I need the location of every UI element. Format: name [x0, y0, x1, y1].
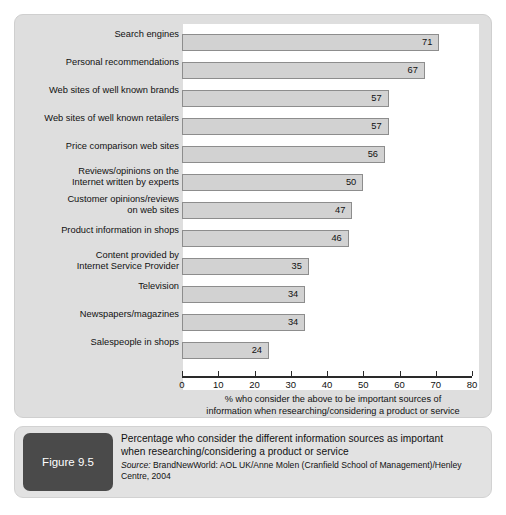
bar-row: Television34: [15, 281, 493, 309]
bar: 34: [182, 314, 305, 331]
bar-row: Newspapers/magazines34: [15, 309, 493, 337]
bar-value-label: 71: [422, 37, 432, 47]
x-axis-tick: [472, 371, 473, 376]
bar-category-label: Search engines: [19, 29, 179, 40]
bar-value-label: 34: [288, 289, 298, 299]
bar-value-label: 46: [331, 233, 341, 243]
x-axis-title-line-1: % who consider the above to be important…: [183, 393, 483, 405]
bar-track: 35: [182, 258, 478, 276]
chart-panel: Search engines71Personal recommendations…: [14, 14, 492, 418]
x-axis-tick: [400, 371, 401, 376]
bar: 71: [182, 34, 439, 51]
x-axis-tick-label: 10: [213, 379, 224, 390]
bar-row: Personal recommendations67: [15, 57, 493, 85]
bar-category-label: Customer opinions/reviews on web sites: [19, 194, 179, 215]
x-axis-tick-label: 50: [358, 379, 369, 390]
bar: 24: [182, 342, 269, 359]
bar-track: 56: [182, 146, 478, 164]
x-axis-tick-label: 80: [467, 379, 478, 390]
bar-track: 34: [182, 314, 478, 332]
bar-track: 24: [182, 342, 478, 360]
caption-title: Percentage who consider the different in…: [121, 433, 485, 458]
bar: 35: [182, 258, 309, 275]
bar-category-label: Television: [19, 281, 179, 292]
x-axis-tick: [255, 371, 256, 376]
bar-value-label: 47: [335, 205, 345, 215]
bar-category-label: Web sites of well known brands: [19, 85, 179, 96]
bar-track: 57: [182, 90, 478, 108]
bar: 56: [182, 146, 385, 163]
bar-row: Search engines71: [15, 29, 493, 57]
bar-value-label: 56: [368, 149, 378, 159]
bar-row: Customer opinions/reviews on web sites47: [15, 197, 493, 225]
bar-row: Reviews/opinions on the Internet written…: [15, 169, 493, 197]
x-axis-tick-labels: 01020304050607080: [15, 379, 493, 393]
bar: 47: [182, 202, 352, 219]
caption-text-block: Percentage who consider the different in…: [121, 433, 485, 482]
x-axis-tick: [182, 371, 183, 376]
bar-track: 67: [182, 62, 478, 80]
bar: 57: [182, 90, 389, 107]
figure-number-badge: Figure 9.5: [23, 433, 113, 491]
x-axis-tick: [436, 371, 437, 376]
x-axis-tick-label: 0: [179, 379, 184, 390]
bar-category-label: Web sites of well known retailers: [19, 113, 179, 124]
bar-value-label: 24: [252, 345, 262, 355]
bar-track: 57: [182, 118, 478, 136]
bar: 57: [182, 118, 389, 135]
bar-row: Content provided by Internet Service Pro…: [15, 253, 493, 281]
bar-category-label: Newspapers/magazines: [19, 309, 179, 320]
bar-value-label: 34: [288, 317, 298, 327]
caption-panel: Figure 9.5 Percentage who consider the d…: [14, 426, 492, 498]
x-axis-tick: [218, 371, 219, 376]
bar-row: Salespeople in shops24: [15, 337, 493, 365]
bar: 50: [182, 174, 363, 191]
x-axis-line: [182, 376, 472, 378]
bar-value-label: 35: [292, 261, 302, 271]
bar-value-label: 57: [371, 121, 381, 131]
bar-row: Price comparison web sites56: [15, 141, 493, 169]
bar-value-label: 57: [371, 93, 381, 103]
bar-track: 47: [182, 202, 478, 220]
bar-category-label: Content provided by Internet Service Pro…: [19, 250, 179, 271]
figure-page: Search engines71Personal recommendations…: [0, 0, 506, 515]
bar-row: Product information in shops46: [15, 225, 493, 253]
bar-value-label: 50: [346, 177, 356, 187]
x-axis-tick-label: 20: [249, 379, 260, 390]
x-axis-tick-label: 70: [430, 379, 441, 390]
bar-value-label: 67: [408, 65, 418, 75]
x-axis-tick: [363, 371, 364, 376]
caption-title-line-2: when researching/considering a product o…: [121, 446, 485, 459]
bar-category-label: Product information in shops: [19, 225, 179, 236]
bar-rows: Search engines71Personal recommendations…: [15, 29, 493, 365]
source-value: BrandNewWorld: AOL UK/Anne Molen (Cranfi…: [121, 460, 462, 481]
source-label: Source:: [121, 460, 151, 470]
bar: 34: [182, 286, 305, 303]
caption-source: Source: BrandNewWorld: AOL UK/Anne Molen…: [121, 460, 485, 482]
bar: 46: [182, 230, 349, 247]
bar: 67: [182, 62, 425, 79]
x-axis-tick: [327, 371, 328, 376]
bar-row: Web sites of well known brands57: [15, 85, 493, 113]
bar-category-label: Price comparison web sites: [19, 141, 179, 152]
bar-track: 71: [182, 34, 478, 52]
bar-category-label: Salespeople in shops: [19, 337, 179, 348]
bar-track: 46: [182, 230, 478, 248]
x-axis-title-line-2: information when researching/considering…: [183, 405, 483, 417]
bar-category-label: Reviews/opinions on the Internet written…: [19, 166, 179, 187]
bar-track: 34: [182, 286, 478, 304]
x-axis-tick: [291, 371, 292, 376]
bar-category-label: Personal recommendations: [19, 57, 179, 68]
x-axis-tick-label: 30: [285, 379, 296, 390]
x-axis-title: % who consider the above to be important…: [183, 393, 483, 417]
x-axis-tick-label: 60: [394, 379, 405, 390]
bar-row: Web sites of well known retailers57: [15, 113, 493, 141]
caption-title-line-1: Percentage who consider the different in…: [121, 433, 485, 446]
x-axis-tick-label: 40: [322, 379, 333, 390]
bar-track: 50: [182, 174, 478, 192]
